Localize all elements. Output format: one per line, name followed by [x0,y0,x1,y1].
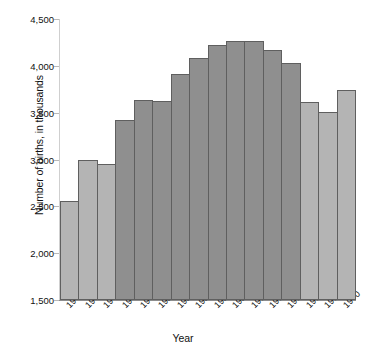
y-tick-label: 3,500 [8,107,54,118]
bar-1964 [281,63,300,300]
x-axis-title: Year [0,332,366,344]
bar-1970 [337,90,356,300]
bar-1962 [263,50,282,300]
y-tick-label: 2,000 [8,248,54,259]
bar-1948 [134,100,153,300]
bar-1950 [152,101,171,301]
y-tick-label: 3,000 [8,154,54,165]
bar-1946 [115,120,134,300]
bar-1940 [60,201,79,300]
births-bar-chart: Number of births, in thousands 4,5004,00… [0,0,366,348]
y-tick-label: 2,500 [8,201,54,212]
y-tick-label: 4,000 [8,60,54,71]
bar-1958 [226,41,245,300]
bar-series [60,19,355,300]
bar-1942 [78,160,97,300]
bar-1960 [244,41,263,300]
bar-1944 [97,164,116,300]
y-tick-label: 1,500 [8,295,54,306]
bar-1968 [318,112,337,300]
bar-1966 [300,102,319,300]
bar-1952 [171,74,190,300]
y-tick-label: 4,500 [8,14,54,25]
bar-1956 [208,45,227,300]
bar-1954 [189,58,208,300]
